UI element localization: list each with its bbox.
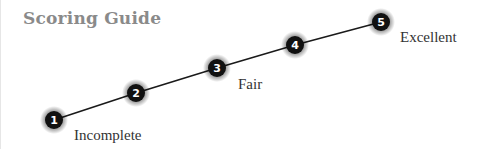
scale-node-4: 4 [281,31,309,59]
node-number: 1 [50,114,58,127]
node-number: 5 [377,16,385,29]
scale-node-3: 3 [203,54,231,82]
scale-node-2: 2 [122,79,150,107]
node-number: 2 [132,87,140,100]
node-number: 3 [213,62,221,75]
scale-node-1: 1 [40,106,68,134]
scoring-guide-diagram: Scoring Guide 1 2 3 4 [0,0,484,149]
label-fair: Fair [238,76,262,93]
label-excellent: Excellent [400,29,457,46]
node-number: 4 [291,39,299,52]
label-incomplete: Incomplete [74,127,141,144]
scale-node-5: 5 [367,8,395,36]
